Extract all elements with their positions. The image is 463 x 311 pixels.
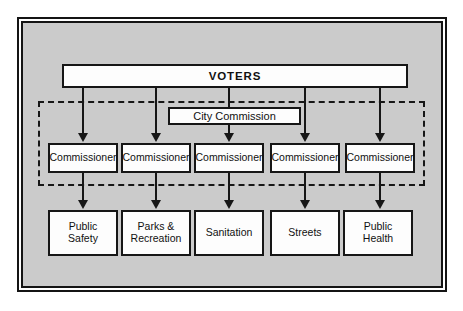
voters-label: VOTERS: [209, 70, 262, 83]
city-commission-label: City Commission: [193, 110, 276, 122]
arrowhead-voters-to-commissioner-2: [151, 133, 161, 142]
arrowhead-commissioner-5-to-department-5: [375, 200, 385, 209]
department-line-2: Health: [361, 233, 395, 245]
connector-commissioner-5-to-department-5: [379, 173, 381, 201]
commissioner-node-4[interactable]: Commissioner: [270, 143, 340, 173]
department-node-parks-recreation[interactable]: Parks & Recreation: [121, 210, 191, 256]
commissioner-label-1: Commissioner: [49, 152, 116, 164]
department-line-2: Safety: [66, 233, 100, 245]
department-line-2: Recreation: [129, 233, 184, 245]
arrowhead-voters-to-commissioner-3: [224, 133, 234, 142]
commissioner-node-3[interactable]: Commissioner: [194, 143, 264, 173]
department-line-1: Streets: [286, 227, 323, 239]
commissioner-node-1[interactable]: Commissioner: [48, 143, 118, 173]
connector-commissioner-2-to-department-2: [155, 173, 157, 201]
department-node-streets[interactable]: Streets: [270, 210, 340, 256]
connector-commissioner-1-to-department-1: [82, 173, 84, 201]
connector-voters-to-commissioner-4: [304, 88, 306, 134]
commissioner-label-2: Commissioner: [122, 152, 189, 164]
commissioner-label-3: Commissioner: [195, 152, 262, 164]
arrowhead-voters-to-commissioner-1: [78, 133, 88, 142]
arrowhead-voters-to-commissioner-4: [300, 133, 310, 142]
arrowhead-voters-to-commissioner-5: [375, 133, 385, 142]
department-label-streets: Streets: [286, 227, 323, 239]
city-commission-node[interactable]: City Commission: [168, 107, 301, 125]
department-label-sanitation: Sanitation: [204, 227, 255, 239]
arrowhead-commissioner-2-to-department-2: [151, 200, 161, 209]
department-label-public-health: Public Health: [361, 221, 395, 245]
voters-node[interactable]: VOTERS: [62, 64, 408, 88]
connector-voters-to-commissioner-1: [82, 88, 84, 134]
arrowhead-commissioner-3-to-department-3: [224, 200, 234, 209]
connector-voters-to-commissioner-5: [379, 88, 381, 134]
connector-commissioner-3-to-department-3: [228, 173, 230, 201]
department-node-public-health[interactable]: Public Health: [343, 210, 413, 256]
commissioner-node-2[interactable]: Commissioner: [121, 143, 191, 173]
connector-voters-to-commissioner-2: [155, 88, 157, 134]
department-label-public-safety: Public Safety: [66, 221, 100, 245]
department-node-sanitation[interactable]: Sanitation: [194, 210, 264, 256]
arrowhead-commissioner-4-to-department-4: [300, 200, 310, 209]
department-label-parks-recreation: Parks & Recreation: [129, 221, 184, 245]
commissioner-node-5[interactable]: Commissioner: [345, 143, 415, 173]
arrowhead-commissioner-1-to-department-1: [78, 200, 88, 209]
commissioner-label-5: Commissioner: [346, 152, 413, 164]
department-node-public-safety[interactable]: Public Safety: [48, 210, 118, 256]
connector-commissioner-4-to-department-4: [304, 173, 306, 201]
department-line-1: Sanitation: [204, 227, 255, 239]
commissioner-label-4: Commissioner: [271, 152, 338, 164]
